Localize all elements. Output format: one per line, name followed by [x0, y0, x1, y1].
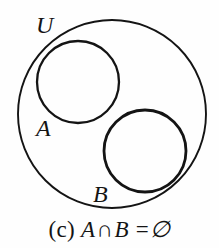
caption-set-a: A [81, 217, 95, 242]
intersection-operator-icon: ∩ [95, 217, 114, 242]
universal-set-circle [18, 20, 206, 208]
set-b-label: B [93, 181, 108, 207]
figure-caption: (c) A∩B =∅ [0, 215, 219, 245]
caption-index: (c) [49, 217, 75, 242]
set-b-circle [104, 110, 186, 192]
equals-sign: = [135, 217, 150, 242]
venn-diagram-canvas: U A B [0, 0, 219, 248]
universal-set-label: U [36, 12, 55, 38]
caption-set-b: B [114, 217, 128, 242]
empty-set-icon: ∅ [150, 217, 170, 242]
figure-container: U A B (c) A∩B =∅ [0, 0, 219, 248]
set-a-label: A [34, 115, 51, 141]
set-a-circle [37, 41, 119, 123]
